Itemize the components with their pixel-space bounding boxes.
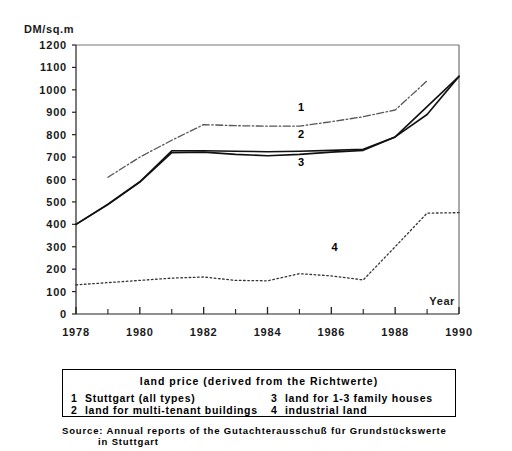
series-line-2 bbox=[76, 76, 459, 224]
legend-label-4: industrial land bbox=[285, 404, 367, 416]
land-price-chart-figure: 0100200300400500600700800900100011001200… bbox=[0, 0, 512, 451]
legend-key-1: 1 bbox=[71, 392, 85, 404]
series-annotation-2: 2 bbox=[298, 128, 304, 140]
y-tick-label: 100 bbox=[46, 286, 67, 298]
y-tick-label: 500 bbox=[46, 196, 67, 208]
legend-key-2: 2 bbox=[71, 404, 85, 416]
legend-key-4: 4 bbox=[271, 404, 285, 416]
series-annotation-4: 4 bbox=[331, 241, 338, 253]
x-tick-label: 1988 bbox=[381, 326, 409, 338]
x-tick-label: 1982 bbox=[190, 326, 218, 338]
x-tick-label: 1980 bbox=[126, 326, 154, 338]
y-tick-label: 1200 bbox=[39, 39, 67, 51]
y-tick-label: 600 bbox=[46, 174, 67, 186]
series-line-3 bbox=[76, 76, 459, 224]
y-tick-label: 1100 bbox=[40, 61, 67, 73]
y-tick-label: 200 bbox=[46, 263, 67, 275]
series-line-1 bbox=[108, 81, 427, 177]
legend-item-1: 1 Stuttgart (all types) bbox=[71, 392, 271, 404]
legend-item-3: 3 land for 1-3 family houses bbox=[271, 392, 449, 404]
x-tick-label: 1990 bbox=[445, 326, 473, 338]
series-annotation-1: 1 bbox=[298, 101, 304, 113]
legend-key-3: 3 bbox=[271, 392, 285, 404]
x-tick-label: 1978 bbox=[62, 326, 90, 338]
series-line-4 bbox=[76, 213, 459, 285]
y-tick-label: 400 bbox=[46, 218, 67, 230]
y-tick-label: 700 bbox=[46, 151, 67, 163]
y-tick-label: 900 bbox=[46, 106, 67, 118]
x-tick-label: 1984 bbox=[254, 326, 282, 338]
y-tick-label: 1000 bbox=[39, 84, 67, 96]
legend-entries: 1 Stuttgart (all types) 3 land for 1-3 f… bbox=[71, 392, 449, 416]
y-tick-label: 0 bbox=[60, 308, 67, 320]
source-line-1: Source: Annual reports of the Gutachtera… bbox=[62, 425, 462, 436]
legend-title: land price (derived from the Richtwerte) bbox=[63, 375, 455, 387]
legend-item-4: 4 industrial land bbox=[271, 404, 449, 416]
chart-legend: land price (derived from the Richtwerte)… bbox=[62, 369, 456, 417]
x-tick-label: 1986 bbox=[317, 326, 345, 338]
source-line-2: in Stuttgart bbox=[62, 436, 462, 447]
legend-label-3: land for 1-3 family houses bbox=[285, 392, 433, 404]
y-axis-title: DM/sq.m bbox=[24, 23, 74, 35]
legend-label-2: land for multi-tenant buildings bbox=[85, 404, 258, 416]
y-tick-label: 800 bbox=[46, 129, 67, 141]
series-annotation-3: 3 bbox=[298, 156, 304, 168]
legend-item-2: 2 land for multi-tenant buildings bbox=[71, 404, 271, 416]
x-axis-title: Year bbox=[429, 295, 455, 307]
source-note: Source: Annual reports of the Gutachtera… bbox=[62, 425, 462, 447]
y-tick-label: 300 bbox=[46, 241, 67, 253]
legend-label-1: Stuttgart (all types) bbox=[85, 392, 195, 404]
